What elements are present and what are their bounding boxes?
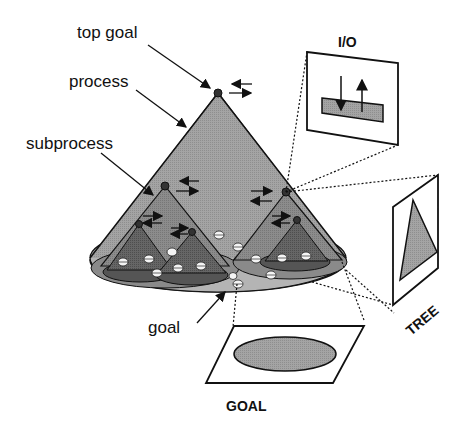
subsub-node-left-b (189, 229, 196, 236)
tree-panel (393, 175, 438, 305)
goal-panel (206, 326, 364, 383)
process-hierarchy-diagram: top goal process subprocess goal I/O TRE… (0, 0, 470, 431)
subprocess-node-left (161, 182, 169, 190)
io-panel (307, 52, 398, 145)
subsub-node-left-a (136, 221, 143, 228)
label-io: I/O (338, 34, 357, 50)
goal-ellipse (234, 337, 336, 371)
label-tree: TREE (403, 302, 442, 338)
label-goal: goal (148, 318, 180, 337)
subsub-node-right (294, 217, 301, 224)
label-goal-panel: GOAL (226, 398, 267, 414)
top-goal-node (214, 89, 222, 97)
label-subprocess: subprocess (26, 134, 113, 153)
label-top-goal: top goal (77, 23, 138, 42)
label-process: process (69, 72, 129, 91)
